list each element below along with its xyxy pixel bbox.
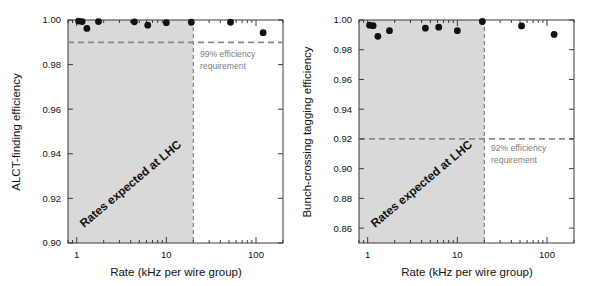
y-tick-label: 0.90	[43, 237, 62, 248]
data-point	[260, 29, 267, 36]
requirement-annotation-line2: requirement	[491, 155, 537, 165]
y-tick-label: 0.94	[43, 148, 62, 159]
y-axis-tick-labels: 0.860.880.900.920.940.960.981.00	[334, 14, 353, 233]
data-point	[518, 23, 525, 30]
y-tick-label: 0.92	[334, 133, 353, 144]
data-point	[95, 18, 102, 25]
y-axis-title: ALCT-finding efficiency	[10, 73, 22, 191]
y-tick-label: 0.96	[334, 74, 353, 85]
x-tick-label: 10	[161, 249, 172, 260]
x-axis-tick-labels: 110100	[74, 249, 264, 260]
data-point	[479, 18, 486, 25]
data-point	[435, 24, 442, 31]
data-point	[422, 25, 429, 32]
y-tick-label: 1.00	[334, 14, 353, 25]
y-tick-label: 0.88	[334, 193, 353, 204]
chart-panel-bunch-crossing-tagging-efficiency: 0.860.880.900.920.940.960.981.00 110100 …	[295, 0, 591, 286]
y-tick-label: 0.86	[334, 223, 353, 234]
y-tick-label: 0.92	[43, 193, 62, 204]
x-axis-tick-labels: 110100	[365, 249, 555, 260]
y-tick-label: 0.94	[334, 104, 353, 115]
requirement-annotation-line2: requirement	[200, 61, 246, 71]
y-tick-label: 1.00	[43, 14, 62, 25]
alct-chart-svg: 0.900.920.940.960.981.00 110100 99% effi…	[0, 0, 296, 286]
shaded-region-rates-expected-at-lhc	[359, 20, 484, 243]
data-point	[84, 25, 91, 32]
y-tick-label: 0.96	[43, 104, 62, 115]
data-point	[370, 22, 377, 29]
x-tick-label: 1	[74, 249, 79, 260]
data-point	[79, 18, 86, 25]
y-tick-label: 0.90	[334, 163, 353, 174]
shaded-region-rates-expected-at-lhc	[68, 20, 193, 243]
x-tick-label: 1	[365, 249, 370, 260]
data-point	[375, 33, 382, 40]
x-tick-label: 100	[539, 249, 555, 260]
y-tick-label: 0.98	[334, 44, 353, 55]
requirement-annotation-line1: 99% efficiency	[200, 49, 256, 59]
x-axis-title: Rate (kHz per wire group)	[401, 266, 533, 278]
figure-two-panel-efficiency-plots: 0.900.920.940.960.981.00 110100 99% effi…	[0, 0, 591, 286]
requirement-annotation-line1: 92% efficiency	[491, 143, 547, 153]
data-point	[188, 19, 195, 26]
data-point	[454, 27, 461, 34]
y-axis-title: Bunch-crossing tagging efficiency	[301, 46, 313, 217]
data-point	[163, 19, 170, 26]
x-tick-label: 10	[452, 249, 463, 260]
chart-panel-alct-finding-efficiency: 0.900.920.940.960.981.00 110100 99% effi…	[0, 0, 296, 286]
data-point	[386, 27, 393, 34]
data-point	[144, 22, 151, 29]
x-tick-label: 100	[248, 249, 264, 260]
y-axis-tick-labels: 0.900.920.940.960.981.00	[43, 14, 62, 248]
data-point	[131, 18, 138, 25]
data-point	[227, 19, 234, 26]
bunch-crossing-chart-svg: 0.860.880.900.920.940.960.981.00 110100 …	[295, 0, 591, 286]
x-axis-title: Rate (kHz per wire group)	[110, 266, 242, 278]
data-point	[551, 31, 558, 38]
y-tick-label: 0.98	[43, 59, 62, 70]
